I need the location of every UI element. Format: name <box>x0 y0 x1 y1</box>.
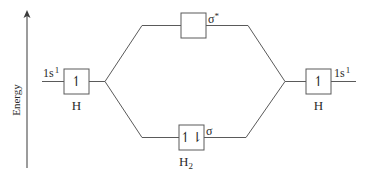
mo-energy-diagram: Energy ↿ 1s1 H σ* <box>0 0 366 178</box>
right-atom-label: H <box>314 98 323 113</box>
left-orbital-label: 1s1 <box>43 65 59 80</box>
left-correlation-lines <box>105 26 142 138</box>
left-atom: ↿ 1s1 H <box>42 65 105 113</box>
energy-axis: Energy <box>10 10 31 168</box>
antibonding-orbital: σ* <box>142 11 248 38</box>
bonding-orbital: ↿⇂ σ H2 <box>142 124 246 171</box>
sigma-label: σ <box>206 124 213 138</box>
right-atom: ↿ 1s1 H <box>285 65 356 113</box>
sigma-star-orbital-box <box>181 13 206 38</box>
molecule-label: H2 <box>179 154 193 171</box>
right-orbital-label: 1s1 <box>334 65 350 80</box>
right-electron-up: ↿ <box>313 74 325 89</box>
sigma-star-label: σ* <box>208 11 219 26</box>
energy-axis-label: Energy <box>10 84 22 116</box>
sigma-electron-pair: ↿⇂ <box>180 130 203 145</box>
right-correlation-lines <box>246 26 285 138</box>
left-atom-label: H <box>72 98 81 113</box>
left-electron-up: ↿ <box>71 74 83 89</box>
